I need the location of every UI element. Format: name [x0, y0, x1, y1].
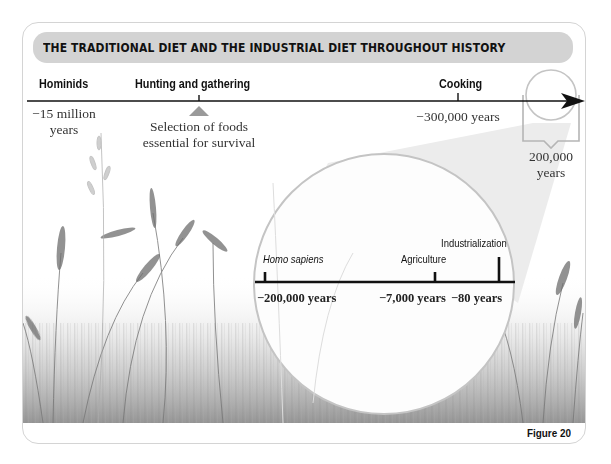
- homo-sapiens-label: Homo sapiens: [263, 253, 323, 265]
- hominids-date: −15 million years: [29, 106, 99, 138]
- agriculture-date: −7,000 years: [379, 291, 446, 306]
- figure-frame: THE TRADITIONAL DIET AND THE INDUSTRIAL …: [22, 22, 586, 444]
- hominids-date-line2: years: [29, 122, 99, 138]
- figure-number: Figure 20: [527, 427, 571, 439]
- zoom-callout-line1: 200,000: [521, 149, 581, 165]
- hunting-note-line2: essential for survival: [139, 135, 259, 151]
- header-bar: THE TRADITIONAL DIET AND THE INDUSTRIAL …: [33, 32, 573, 63]
- industrialization-label: Industrialization: [441, 237, 507, 249]
- hunting-note: Selection of foods essential for surviva…: [139, 119, 259, 151]
- zoom-callout-date: 200,000 years: [521, 149, 581, 181]
- agriculture-label: Agriculture: [401, 253, 446, 265]
- hominids-label: Hominids: [39, 77, 88, 91]
- industrialization-date: −80 years: [451, 291, 502, 306]
- hominids-date-line1: −15 million: [29, 106, 99, 122]
- hunting-note-line1: Selection of foods: [139, 119, 259, 135]
- cooking-label: Cooking: [439, 77, 482, 91]
- figure-title: THE TRADITIONAL DIET AND THE INDUSTRIAL …: [43, 40, 505, 55]
- zoom-callout-line2: years: [521, 165, 581, 181]
- wheat-field-background: [23, 23, 586, 423]
- hunting-gathering-label: Hunting and gathering: [135, 77, 250, 91]
- cooking-date: −300,000 years: [403, 109, 513, 125]
- homo-sapiens-date: −200,000 years: [257, 291, 336, 306]
